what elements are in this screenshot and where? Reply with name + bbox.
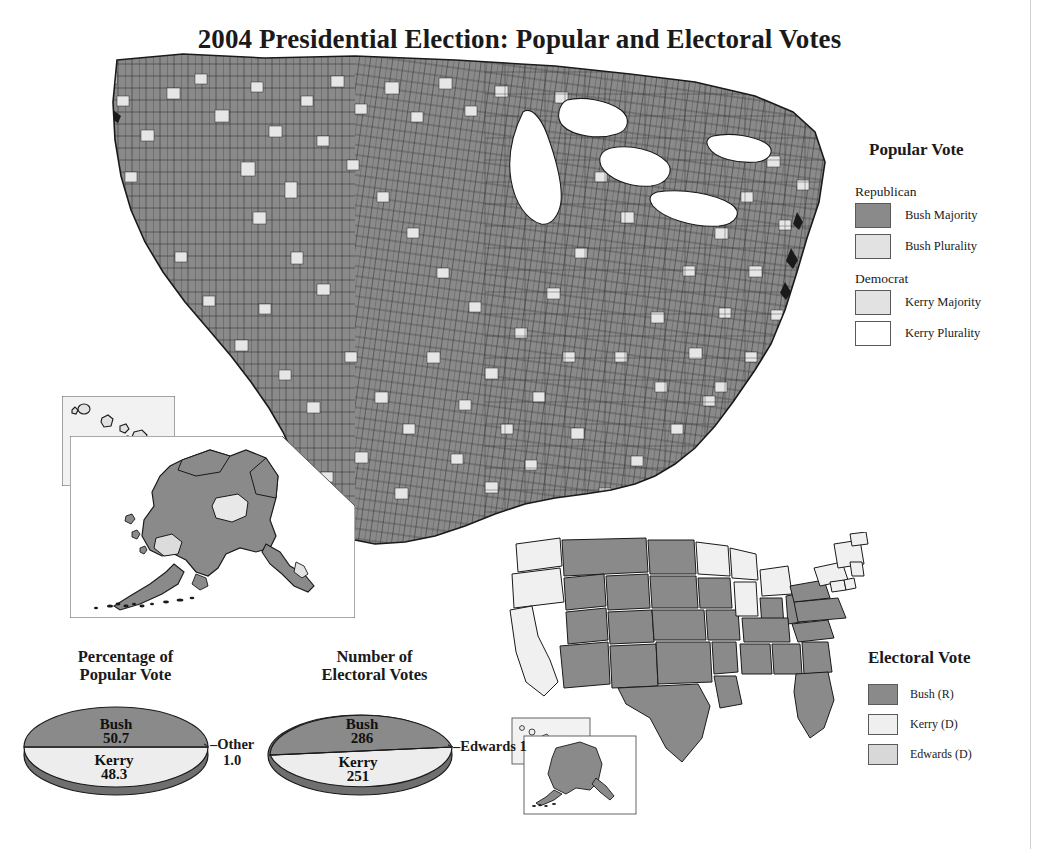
swatch-kerry-majority bbox=[855, 290, 891, 315]
state-oregon bbox=[512, 568, 564, 608]
electoral-pie-edwards-text: Edwards 1 bbox=[460, 738, 526, 754]
state-colorado bbox=[608, 610, 654, 644]
electoral-pie-edwards-callout: –Edwards 1 bbox=[453, 739, 527, 755]
state-kentucky-tennessee bbox=[742, 618, 790, 642]
swatch-bush-majority bbox=[855, 203, 891, 228]
legend-label-bush-r: Bush (R) bbox=[910, 687, 954, 702]
state-south-dakota bbox=[650, 576, 698, 608]
swatch-edwards-d bbox=[868, 744, 898, 765]
state-new-jersey bbox=[850, 562, 864, 576]
state-maryland bbox=[830, 580, 846, 592]
state-illinois bbox=[734, 582, 758, 616]
popular-pie-title: Percentage of Popular Vote bbox=[18, 648, 233, 685]
legend-group-democrat: Democrat Kerry Majority Kerry Plurality bbox=[855, 271, 1035, 346]
legend-label-kerry-d: Kerry (D) bbox=[910, 717, 958, 732]
legend-label-edwards-d: Edwards (D) bbox=[910, 747, 972, 762]
electoral-pie-title-line1: Number of bbox=[336, 647, 412, 666]
electoral-vote-legend: Electoral Vote Bush (R) Kerry (D) Edward… bbox=[868, 648, 1038, 774]
electoral-legend-title: Electoral Vote bbox=[868, 648, 1038, 668]
popular-pie-other-callout: –Other 1.0 bbox=[210, 737, 254, 769]
popular-vote-pie-chart: Bush 50.7 Kerry 48.3 bbox=[18, 693, 233, 801]
popular-pie-wrap: Bush 50.7 Kerry 48.3 –Other 1.0 bbox=[18, 693, 288, 805]
popular-pie-bush-value: 50.7 bbox=[103, 730, 130, 746]
state-georgia bbox=[802, 642, 832, 674]
state-idaho bbox=[564, 574, 606, 610]
state-arizona bbox=[560, 642, 610, 688]
state-michigan bbox=[760, 566, 792, 596]
popular-vote-legend: Popular Vote Republican Bush Majority Bu… bbox=[855, 140, 1035, 358]
legend-row-bush-r[interactable]: Bush (R) bbox=[868, 684, 1038, 705]
state-delaware bbox=[844, 578, 856, 590]
state-iowa bbox=[698, 578, 732, 608]
legend-row-kerry-majority[interactable]: Kerry Majority bbox=[855, 290, 1035, 315]
state-new-mexico bbox=[610, 644, 658, 688]
state-washington bbox=[516, 538, 562, 572]
electoral-pie-title: Number of Electoral Votes bbox=[262, 648, 487, 685]
scan-artifact-line bbox=[1030, 0, 1031, 849]
popular-vote-pie-block: Percentage of Popular Vote Bush 50.7 Ker… bbox=[18, 648, 288, 813]
state-florida bbox=[794, 672, 834, 738]
election-map-page: 2004 Presidential Election: Popular and … bbox=[0, 0, 1039, 849]
electoral-pie-wrap: Bush 286 Kerry 251 –Edwards 1 bbox=[262, 693, 552, 805]
popular-pie-other-name: Other bbox=[217, 736, 254, 752]
state-missouri bbox=[706, 610, 740, 640]
state-mississippi bbox=[740, 644, 772, 674]
alaska-inset-county bbox=[70, 436, 355, 618]
state-minnesota bbox=[696, 542, 730, 576]
page-title: 2004 Presidential Election: Popular and … bbox=[0, 24, 1039, 55]
electoral-vote-pie-block: Number of Electoral Votes Bush 286 Kerry… bbox=[262, 648, 552, 813]
state-south-carolina bbox=[792, 620, 834, 642]
swatch-bush-r bbox=[868, 684, 898, 705]
legend-group-title-republican: Republican bbox=[855, 184, 1035, 200]
legend-label-bush-majority: Bush Majority bbox=[905, 208, 978, 223]
legend-group-republican: Republican Bush Majority Bush Plurality bbox=[855, 184, 1035, 259]
state-wyoming bbox=[606, 574, 650, 610]
electoral-vote-pie-chart: Bush 286 Kerry 251 bbox=[262, 693, 477, 801]
popular-pie-title-line1: Percentage of bbox=[78, 647, 173, 666]
popular-pie-other-value: 1.0 bbox=[210, 753, 254, 769]
state-nebraska-kansas bbox=[652, 610, 706, 640]
legend-row-kerry-d[interactable]: Kerry (D) bbox=[868, 714, 1038, 735]
popular-legend-title: Popular Vote bbox=[869, 140, 1035, 160]
legend-label-kerry-plurality: Kerry Plurality bbox=[905, 326, 980, 341]
state-louisiana bbox=[714, 676, 742, 708]
state-wisconsin bbox=[730, 548, 758, 580]
state-nevada-utah-a bbox=[566, 608, 608, 644]
swatch-bush-plurality bbox=[855, 234, 891, 259]
legend-label-kerry-majority: Kerry Majority bbox=[905, 295, 981, 310]
popular-pie-title-line2: Popular Vote bbox=[80, 665, 172, 684]
electoral-pie-bush-value: 286 bbox=[351, 730, 374, 746]
swatch-kerry-d bbox=[868, 714, 898, 735]
state-north-dakota bbox=[648, 540, 696, 574]
electoral-vote-map bbox=[498, 532, 870, 820]
electoral-pie-kerry-value: 251 bbox=[347, 768, 370, 784]
popular-pie-kerry-value: 48.3 bbox=[101, 766, 127, 782]
state-arkansas bbox=[712, 642, 738, 674]
legend-row-kerry-plurality[interactable]: Kerry Plurality bbox=[855, 321, 1035, 346]
swatch-kerry-plurality bbox=[855, 321, 891, 346]
state-oklahoma bbox=[656, 642, 712, 684]
legend-row-edwards-d[interactable]: Edwards (D) bbox=[868, 744, 1038, 765]
electoral-pie-title-line2: Electoral Votes bbox=[322, 665, 428, 684]
state-new-england bbox=[850, 532, 868, 546]
legend-label-bush-plurality: Bush Plurality bbox=[905, 239, 977, 254]
state-montana bbox=[562, 538, 648, 576]
state-alabama bbox=[772, 644, 802, 674]
legend-group-title-democrat: Democrat bbox=[855, 271, 1035, 287]
legend-row-bush-plurality[interactable]: Bush Plurality bbox=[855, 234, 1035, 259]
legend-row-bush-majority[interactable]: Bush Majority bbox=[855, 203, 1035, 228]
